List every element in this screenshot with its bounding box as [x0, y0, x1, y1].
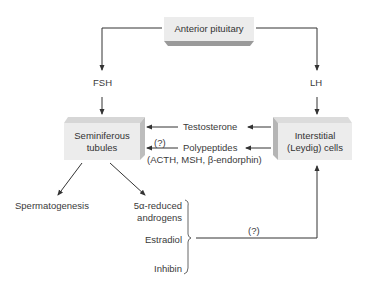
fsh-label: FSH: [93, 77, 112, 88]
interstitial-label-line2: (Leydig) cells: [287, 142, 343, 154]
polypeptides-detail-label: (ACTH, MSH, β-endorphin): [147, 154, 262, 165]
feedback-uncertain-label: (?): [248, 225, 260, 236]
seminiferous-tubules-node: Seminiferous tubules: [64, 123, 140, 160]
interstitial-label-line1: Interstitial: [295, 130, 336, 142]
anterior-pituitary-node: Anterior pituitary: [164, 17, 254, 41]
inhibin-label: Inhibin: [127, 263, 182, 274]
polypeptides-label: Polypeptides: [183, 142, 237, 153]
interstitial-cells-node: Interstitial (Leydig) cells: [278, 123, 352, 160]
testosterone-label: Testosterone: [183, 121, 237, 132]
lh-label: LH: [310, 77, 322, 88]
reduced-androgens-label-line2: androgens: [127, 212, 182, 223]
polypeptides-uncertain-label: (?): [154, 137, 166, 148]
reduced-androgens-label-line1: 5α-reduced: [127, 200, 182, 211]
seminiferous-label-line2: tubules: [87, 142, 118, 154]
seminiferous-label-line1: Seminiferous: [74, 130, 129, 142]
spermatogenesis-label: Spermatogenesis: [15, 200, 89, 211]
estradiol-label: Estradiol: [127, 234, 182, 245]
anterior-pituitary-label: Anterior pituitary: [174, 23, 243, 35]
